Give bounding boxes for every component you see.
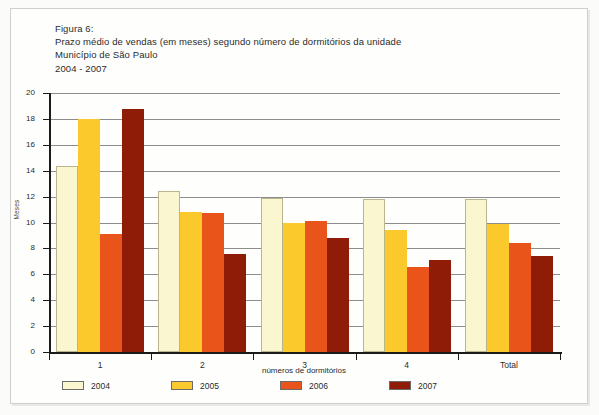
bar-2007-Total (531, 256, 553, 352)
legend-swatch-2007 (389, 381, 411, 390)
y-tick-label: 14 (9, 166, 35, 175)
legend-item-2006: 2006 (280, 376, 328, 390)
bar-2005-1 (78, 119, 100, 352)
x-tick-mark (356, 354, 357, 360)
legend-swatch-2006 (280, 381, 302, 390)
y-tick-label: 12 (9, 192, 35, 201)
bar-2007-2 (224, 254, 246, 352)
legend-label-2004: 2004 (91, 381, 110, 391)
legend-label-2007: 2007 (418, 381, 437, 391)
bar-2006-4 (407, 267, 429, 352)
figure-root: Figura 6: Prazo médio de vendas (em mese… (0, 0, 599, 415)
y-tick-label: 16 (9, 140, 35, 149)
x-axis-title: números de dormitórios (48, 366, 560, 375)
y-tick-label: 18 (9, 114, 35, 123)
bar-2006-2 (202, 213, 224, 352)
bar-2007-4 (429, 260, 451, 352)
y-tick-label: 10 (9, 218, 35, 227)
x-tick-mark (151, 354, 152, 360)
bar-2006-1 (100, 234, 122, 352)
x-axis-line (49, 352, 562, 354)
chart-plot: Meses 02468101214161820 1234Total número… (0, 0, 599, 415)
bar-2007-3 (327, 238, 349, 352)
legend-swatch-2005 (171, 381, 193, 390)
legend-swatch-2004 (62, 381, 84, 390)
bar-2004-1 (56, 166, 78, 352)
x-tick-mark (458, 354, 459, 360)
bars-layer (49, 93, 560, 352)
legend-item-2005: 2005 (171, 376, 219, 390)
y-tick-label: 6 (9, 269, 35, 278)
bar-2005-4 (385, 230, 407, 352)
y-tick-label: 0 (9, 347, 35, 356)
y-tick-label: 20 (9, 88, 35, 97)
x-tick-mark (49, 354, 50, 360)
x-tick-mark (253, 354, 254, 360)
bar-2007-1 (122, 109, 144, 352)
bar-2004-Total (465, 199, 487, 352)
bar-2004-3 (261, 198, 283, 352)
bar-2004-4 (363, 199, 385, 352)
bar-2004-2 (158, 191, 180, 352)
y-tick-label: 2 (9, 321, 35, 330)
x-tick-mark (560, 354, 561, 360)
legend-label-2006: 2006 (309, 381, 328, 391)
legend-item-2004: 2004 (62, 376, 110, 390)
y-tick-label: 8 (9, 243, 35, 252)
bar-2005-Total (487, 224, 509, 352)
legend-item-2007: 2007 (389, 376, 437, 390)
bar-2006-Total (509, 243, 531, 352)
bar-2006-3 (305, 221, 327, 352)
legend-label-2005: 2005 (200, 381, 219, 391)
bar-2005-3 (283, 223, 305, 353)
bar-2005-2 (180, 212, 202, 352)
y-tick-label: 4 (9, 295, 35, 304)
